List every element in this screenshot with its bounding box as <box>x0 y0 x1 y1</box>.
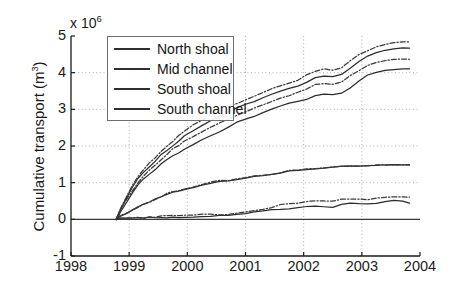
legend-item-mid-channel[interactable]: Mid channel <box>108 58 233 79</box>
y-tick-label: 1 <box>42 174 66 190</box>
legend-label-south-channel: South channel <box>157 102 247 116</box>
legend-item-south-channel[interactable]: South channel <box>108 98 233 119</box>
y-tick-label-wrap: 3 <box>42 100 66 114</box>
legend-label-south-shoal: South shoal <box>157 82 231 96</box>
y-tick-label: 2 <box>42 137 66 153</box>
exponent-prefix: x 10 <box>70 15 96 31</box>
y-tick-label: 0 <box>42 210 66 226</box>
x-tick-label: 2001 <box>216 258 276 274</box>
chart-legend: North shoal Mid channel South shoal Sout… <box>107 36 234 121</box>
y-tick-label: 5 <box>42 27 66 43</box>
x-tick-label: 2002 <box>274 258 334 274</box>
exponent-power: 6 <box>96 13 101 24</box>
x-tick-label: 1998 <box>41 258 101 274</box>
y-tick-label-wrap: 2 <box>42 137 66 151</box>
legend-line-north-shoal <box>114 48 150 50</box>
x-tick-label: 1999 <box>99 258 159 274</box>
legend-label-north-shoal: North shoal <box>157 42 229 56</box>
y-tick-label-wrap: 0 <box>42 210 66 224</box>
legend-label-mid-channel: Mid channel <box>157 62 233 76</box>
x-tick-label: 2004 <box>390 258 450 274</box>
y-tick-label: 3 <box>42 100 66 116</box>
x-tick-label: 2003 <box>332 258 392 274</box>
x-tick-label: 2000 <box>157 258 217 274</box>
y-tick-label-wrap: 5 <box>42 27 66 41</box>
legend-line-south-shoal <box>114 88 150 90</box>
legend-line-mid-channel <box>114 68 150 70</box>
y-axis-label-exponent: 3 <box>30 66 40 71</box>
legend-item-north-shoal[interactable]: North shoal <box>108 38 233 59</box>
y-tick-label-wrap: 4 <box>42 64 66 78</box>
legend-line-south-channel <box>114 108 150 110</box>
y-tick-label-wrap: 1 <box>42 174 66 188</box>
y-axis-exponent-multiplier: x 106 <box>70 13 102 31</box>
y-tick-label: 4 <box>42 64 66 80</box>
legend-item-south-shoal[interactable]: South shoal <box>108 78 233 99</box>
